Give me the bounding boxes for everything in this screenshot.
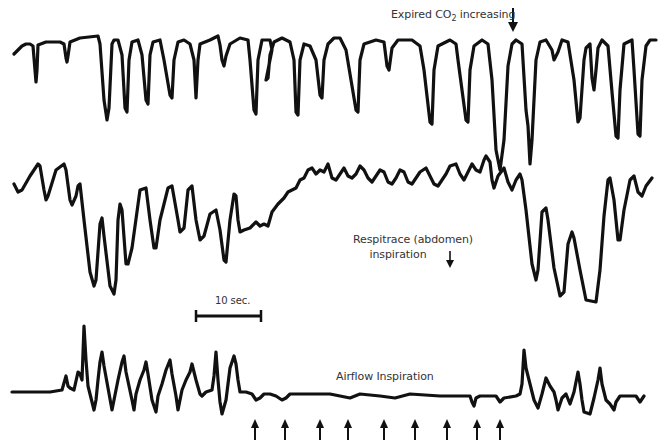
- up-arrow-head-icon: [316, 419, 324, 428]
- airflow-label: Airflow Inspiration: [336, 370, 434, 383]
- airflow-trace: [12, 326, 644, 414]
- respitrace-label: Respitrace (abdomen) inspiration: [353, 232, 473, 262]
- up-arrow-head-icon: [496, 419, 504, 428]
- expired-co2-trace: [14, 36, 656, 170]
- up-arrow-head-icon: [251, 419, 259, 428]
- effort-arrows: [251, 419, 504, 440]
- up-arrow-head-icon: [411, 419, 419, 428]
- co2-label: Expired CO2 increasing: [391, 8, 515, 23]
- up-arrow-head-icon: [344, 419, 352, 428]
- respitrace-abdomen-trace: [14, 156, 652, 302]
- up-arrow-head-icon: [380, 419, 388, 428]
- respiratory-polygraph: [0, 0, 669, 448]
- up-arrow-head-icon: [281, 419, 289, 428]
- scale-label: 10 sec.: [215, 295, 250, 306]
- up-arrow-head-icon: [473, 419, 481, 428]
- up-arrow-head-icon: [443, 419, 451, 428]
- time-scale-bar: [196, 310, 261, 322]
